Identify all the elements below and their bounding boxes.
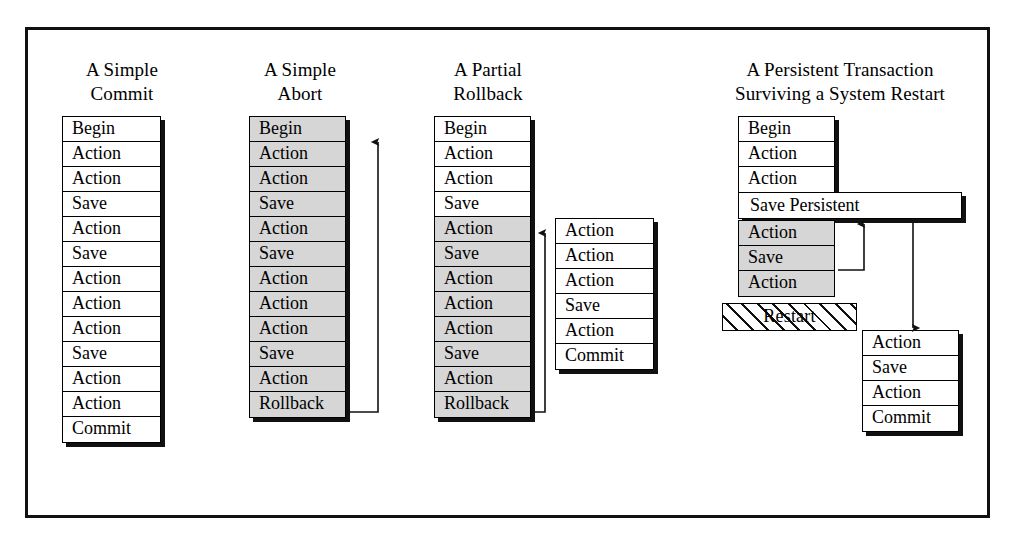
column-title-partial-rollback: A Partial Rollback	[424, 58, 552, 106]
partial-rollback-row: Action	[435, 317, 530, 342]
partial-rollback-row: Action	[435, 367, 530, 392]
persistent-save-label: Save Persistent	[750, 195, 860, 215]
transaction-stack-persistent-before-save: BeginActionAction	[738, 116, 835, 193]
persistent-resumed-row: Action	[863, 381, 958, 406]
persistent-before-save-row: Begin	[739, 117, 834, 142]
partial-rollback-row: Action	[435, 167, 530, 192]
partial-rollback-resumed-row: Action	[556, 319, 653, 344]
transaction-stack-persistent-after-save: ActionSaveAction	[738, 220, 835, 297]
simple-abort-row: Action	[250, 317, 345, 342]
simple-commit-row: Action	[63, 317, 160, 342]
column-title-simple-abort: A Simple Abort	[236, 58, 364, 106]
title-line-1: A Persistent Transaction	[706, 58, 974, 82]
simple-commit-row: Save	[63, 342, 160, 367]
partial-rollback-row: Save	[435, 192, 530, 217]
transaction-stack-simple-commit: BeginActionActionSaveActionSaveActionAct…	[62, 116, 161, 443]
persistent-resumed-row: Save	[863, 356, 958, 381]
title-line-2: Abort	[236, 82, 364, 106]
transaction-stack-partial-rollback-resumed: ActionActionActionSaveActionCommit	[555, 218, 654, 370]
column-title-persistent-transaction: A Persistent Transaction Surviving a Sys…	[706, 58, 974, 106]
persistent-before-save-row: Action	[739, 167, 834, 192]
simple-abort-row: Action	[250, 217, 345, 242]
simple-commit-row: Action	[63, 267, 160, 292]
partial-rollback-resumed-row: Action	[556, 244, 653, 269]
simple-commit-row: Save	[63, 192, 160, 217]
persistent-save-row: Save Persistent	[738, 192, 962, 219]
transaction-stack-partial-rollback: BeginActionActionSaveActionSaveActionAct…	[434, 116, 531, 418]
simple-commit-row: Save	[63, 242, 160, 267]
simple-commit-row: Action	[63, 167, 160, 192]
partial-rollback-row: Action	[435, 217, 530, 242]
simple-commit-row: Commit	[63, 417, 160, 442]
simple-commit-row: Action	[63, 392, 160, 417]
title-line-1: A Simple	[236, 58, 364, 82]
simple-commit-row: Action	[63, 217, 160, 242]
simple-abort-row: Action	[250, 267, 345, 292]
title-line-2: Surviving a System Restart	[706, 82, 974, 106]
simple-abort-row: Save	[250, 242, 345, 267]
title-line-1: A Simple	[48, 58, 196, 82]
partial-rollback-row: Action	[435, 292, 530, 317]
simple-abort-row: Begin	[250, 117, 345, 142]
simple-commit-row: Action	[63, 367, 160, 392]
simple-abort-row: Action	[250, 142, 345, 167]
partial-rollback-row: Save	[435, 242, 530, 267]
simple-abort-row: Action	[250, 167, 345, 192]
simple-commit-row: Action	[63, 292, 160, 317]
partial-rollback-row: Rollback	[435, 392, 530, 417]
persistent-resumed-row: Action	[863, 331, 958, 356]
restart-label: Restart	[723, 304, 856, 329]
persistent-after-save-row: Action	[739, 221, 834, 246]
persistent-resumed-row: Commit	[863, 406, 958, 431]
persistent-after-save-row: Action	[739, 271, 834, 296]
system-restart-block: Restart	[722, 303, 857, 331]
partial-rollback-resumed-row: Commit	[556, 344, 653, 369]
simple-abort-row: Action	[250, 367, 345, 392]
partial-rollback-row: Begin	[435, 117, 530, 142]
partial-rollback-resumed-row: Save	[556, 294, 653, 319]
persistent-before-save-row: Action	[739, 142, 834, 167]
partial-rollback-row: Action	[435, 142, 530, 167]
simple-abort-row: Save	[250, 192, 345, 217]
transaction-stack-persistent-resumed: ActionSaveActionCommit	[862, 330, 959, 432]
figure-canvas: A Simple Commit BeginActionActionSaveAct…	[0, 0, 1014, 543]
simple-abort-row: Action	[250, 292, 345, 317]
column-title-simple-commit: A Simple Commit	[48, 58, 196, 106]
simple-abort-row: Save	[250, 342, 345, 367]
simple-commit-row: Action	[63, 142, 160, 167]
transaction-stack-simple-abort: BeginActionActionSaveActionSaveActionAct…	[249, 116, 346, 418]
persistent-after-save-row: Save	[739, 246, 834, 271]
simple-commit-row: Begin	[63, 117, 160, 142]
title-line-1: A Partial	[424, 58, 552, 82]
partial-rollback-resumed-row: Action	[556, 219, 653, 244]
partial-rollback-resumed-row: Action	[556, 269, 653, 294]
partial-rollback-row: Save	[435, 342, 530, 367]
simple-abort-row: Rollback	[250, 392, 345, 417]
title-line-2: Rollback	[424, 82, 552, 106]
partial-rollback-row: Action	[435, 267, 530, 292]
title-line-2: Commit	[48, 82, 196, 106]
